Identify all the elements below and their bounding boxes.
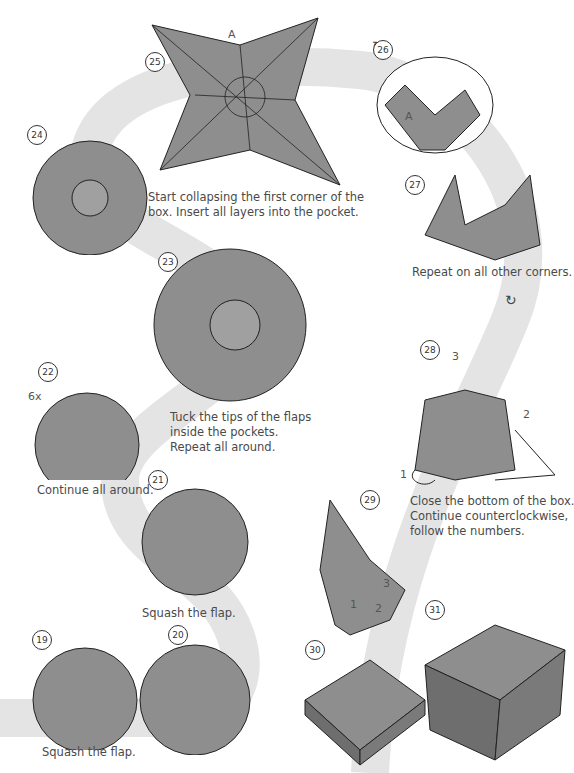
step-26: 26 A — [365, 40, 495, 160]
step-22: 22 6x — [0, 360, 140, 480]
step-28: 28 1 2 3 — [395, 340, 565, 490]
number-label: 1 — [350, 598, 357, 611]
number-label: 2 — [375, 602, 382, 615]
label-6x: 6x — [28, 390, 42, 403]
number-label: 3 — [383, 577, 390, 590]
step-25: 25 A Start collapsing the first corner o… — [140, 0, 370, 190]
step-number: 30 — [305, 640, 325, 660]
step-number: 21 — [148, 470, 168, 490]
step-number: 23 — [158, 252, 178, 272]
step-26-illustration — [365, 50, 495, 170]
step-19: 19 — [0, 630, 140, 750]
step-number: 19 — [32, 630, 52, 650]
step-number: 31 — [425, 600, 445, 620]
step-caption: Squash the flap. — [142, 606, 236, 621]
step-25-illustration — [140, 0, 370, 190]
step-caption: Close the bottom of the box. Continue co… — [410, 494, 574, 539]
number-label: 3 — [452, 350, 459, 363]
number-label: 2 — [523, 408, 530, 421]
step-21-illustration — [135, 470, 255, 600]
step-caption: Tuck the tips of the flaps inside the po… — [170, 410, 311, 455]
step-31-illustration — [420, 590, 568, 770]
step-20: 20 — [135, 625, 255, 755]
step-19-illustration — [0, 630, 140, 750]
step-28-illustration — [395, 340, 565, 490]
step-number: 28 — [420, 340, 440, 360]
step-27-illustration — [405, 175, 565, 265]
step-21: 21 — [135, 470, 255, 600]
step-22-illustration — [0, 360, 140, 480]
step-number: 25 — [145, 52, 165, 72]
step-29-illustration — [310, 490, 420, 640]
step-27: 27 Repeat on all other corners. — [405, 175, 565, 285]
step-caption: Squash the flap. — [42, 745, 136, 760]
step-number: 29 — [360, 490, 380, 510]
step-caption: Repeat on all other corners. — [412, 265, 572, 280]
step-31: 31 — [420, 590, 568, 770]
step-number: 22 — [38, 362, 58, 382]
step-30-illustration — [300, 640, 430, 770]
step-24: 24 — [20, 125, 150, 255]
step-caption: Start collapsing the first corner of the… — [148, 190, 364, 220]
step-23: 23 — [150, 245, 310, 405]
step-30: 30 — [300, 640, 430, 770]
label-a: A — [405, 110, 413, 123]
step-number: 24 — [27, 125, 47, 145]
step-20-illustration — [135, 625, 255, 755]
step-29: 29 1 2 3 — [310, 490, 420, 640]
label-a: A — [228, 28, 236, 41]
step-number: 20 — [168, 625, 188, 645]
number-label: 1 — [400, 468, 407, 481]
rotate-icon: ↻ — [505, 292, 517, 308]
